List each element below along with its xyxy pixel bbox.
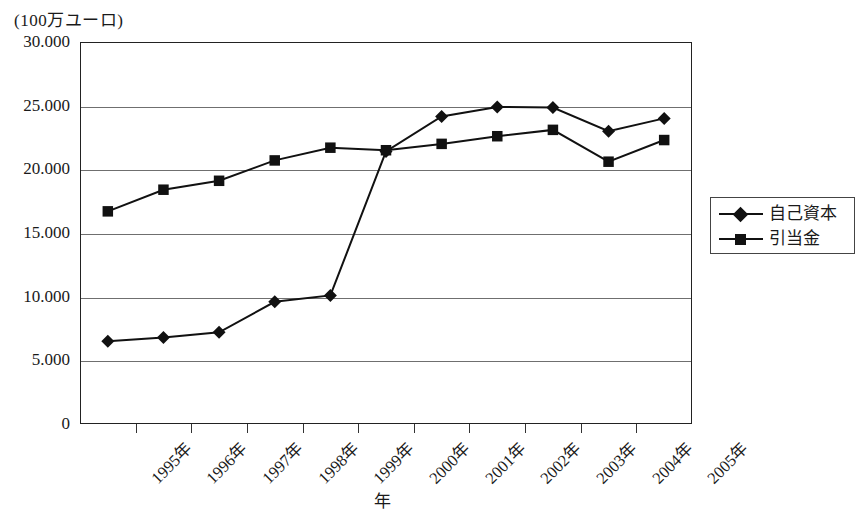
square-data-point [603, 156, 614, 167]
diamond-data-point [213, 326, 226, 339]
legend: 自己資本 引当金 [710, 197, 855, 254]
diamond-data-point [324, 289, 337, 302]
diamond-data-point [435, 110, 448, 123]
series-line [108, 130, 664, 212]
series-layer [0, 0, 861, 525]
diamond-data-point [157, 331, 170, 344]
square-data-point [436, 139, 447, 150]
square-data-point [492, 131, 503, 142]
series-line [108, 107, 664, 341]
square-data-point [381, 145, 392, 156]
square-data-point [548, 125, 559, 136]
diamond-data-point [546, 101, 559, 114]
square-data-point [158, 184, 169, 195]
diamond-data-point [602, 125, 615, 138]
legend-item-provisions: 引当金 [711, 226, 854, 251]
diamond-data-point [658, 112, 671, 125]
legend-label-provisions: 引当金 [769, 230, 820, 247]
diamond-data-point [491, 100, 504, 113]
legend-label-equity: 自己資本 [769, 205, 837, 222]
line-chart: (100万ユーロ) 30.00025.00020.00015.00010.000… [0, 0, 861, 525]
square-data-point [659, 135, 670, 146]
square-marker-icon [719, 231, 763, 247]
diamond-data-point [268, 295, 281, 308]
legend-item-equity: 自己資本 [711, 201, 854, 226]
diamond-marker-icon [719, 206, 763, 222]
square-data-point [269, 155, 280, 166]
square-data-point [103, 206, 114, 217]
diamond-data-point [101, 335, 114, 348]
square-data-point [325, 142, 336, 153]
square-data-point [214, 176, 225, 187]
